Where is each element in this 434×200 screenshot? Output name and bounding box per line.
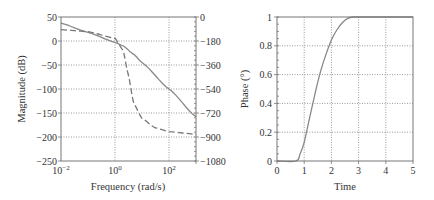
y-axis-title-phase: Phase (°) xyxy=(239,69,251,108)
y-tick-label: −150 xyxy=(36,108,57,119)
x-tick-label: 2 xyxy=(329,165,334,176)
left-grid xyxy=(61,17,196,161)
y2-tick-label: 0 xyxy=(200,12,205,23)
x-axis-title-frequency: Frequency (rad/s) xyxy=(91,181,166,193)
magnitude-curve xyxy=(61,23,196,117)
y-tick-label: 0.2 xyxy=(260,127,273,138)
y2-tick-label: −180 xyxy=(200,36,221,47)
y2-tick-label: −360 xyxy=(200,60,221,71)
y-tick-label: 50 xyxy=(47,12,57,23)
y2-tick-label: −720 xyxy=(200,108,221,119)
right-tick-labels: 00.20.40.60.81012345 xyxy=(260,12,416,177)
x-tick-label: 10−2 xyxy=(52,164,70,176)
y2-tick-label: −540 xyxy=(200,84,221,95)
y2-tick-label: −1080 xyxy=(200,156,226,167)
x-tick-label: 4 xyxy=(383,165,388,176)
y-tick-label: −50 xyxy=(41,60,57,71)
right-plot-frame xyxy=(277,17,413,161)
y-tick-label: −100 xyxy=(36,84,57,95)
y-tick-label: 0.6 xyxy=(260,69,273,80)
figure: 5000−180−50−360−100−540−150−720−200−900−… xyxy=(0,0,434,200)
x-tick-label: 0 xyxy=(275,165,280,176)
y-tick-label: −200 xyxy=(36,132,57,143)
y-axis-title-magnitude: Magnitude (dB) xyxy=(16,55,28,123)
x-tick-label: 3 xyxy=(356,165,361,176)
left-tick-labels: 5000−180−50−360−100−540−150−720−200−900−… xyxy=(36,12,225,177)
left-ticks xyxy=(58,17,199,164)
y-tick-label: 0 xyxy=(267,156,272,167)
y-tick-label: 0.4 xyxy=(260,98,273,109)
y-tick-label: 0 xyxy=(52,36,57,47)
right-curves xyxy=(277,17,413,162)
x-tick-label: 1 xyxy=(302,165,307,176)
y-tick-label: 1 xyxy=(267,12,272,23)
y2-tick-label: −900 xyxy=(200,132,221,143)
phase-curve xyxy=(61,30,196,135)
x-axis-title-time: Time xyxy=(334,181,356,192)
x-tick-label: 100 xyxy=(108,164,122,176)
bode-plot: 5000−180−50−360−100−540−150−720−200−900−… xyxy=(16,12,226,194)
y-tick-label: 0.8 xyxy=(260,40,273,51)
step-response-plot: 00.20.40.60.81012345 Time Phase (°) xyxy=(239,12,416,193)
right-grid xyxy=(277,17,413,161)
left-curves xyxy=(61,23,196,134)
right-ticks xyxy=(274,17,413,164)
x-tick-label: 5 xyxy=(411,165,416,176)
x-tick-label: 102 xyxy=(162,164,176,176)
response-curve xyxy=(277,17,413,162)
